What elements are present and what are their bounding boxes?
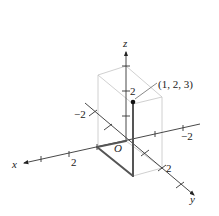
y-tick-label-positive: 2 (166, 162, 172, 174)
x-axis-label: x (11, 158, 17, 170)
coordinate-diagram: (1, 2, 3) z 2 x 2 −2 y 2 −2 O (0, 0, 219, 216)
point-marker (131, 100, 136, 105)
point-label: (1, 2, 3) (158, 78, 193, 91)
z-axis (122, 52, 130, 141)
y-tick-label-negative: −2 (74, 108, 86, 120)
x-tick-label-positive: 2 (71, 156, 77, 168)
x-tick-label-negative: −2 (181, 130, 193, 142)
point-leader-line (135, 83, 157, 99)
y-axis-label: y (189, 193, 195, 205)
y-axis (85, 103, 194, 195)
origin-label: O (114, 142, 122, 154)
z-tick-label: 2 (130, 85, 136, 97)
z-axis-label: z (122, 37, 128, 49)
